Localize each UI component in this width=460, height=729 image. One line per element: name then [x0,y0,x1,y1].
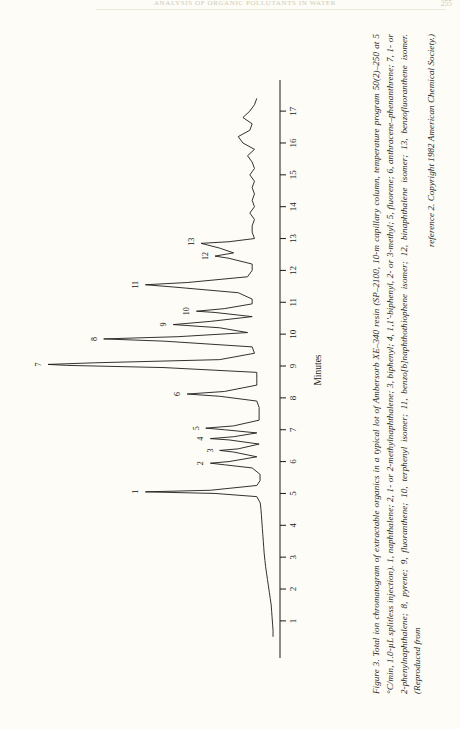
peak-label-3: 3 [206,448,215,452]
caption-line-0: Figure 3. Total ion chromatogram of extr… [371,176,381,694]
x-tick-15: 15 [288,170,298,179]
x-axis-title: Minutes [313,70,323,670]
x-tick-13: 13 [288,234,298,243]
x-tick-3: 3 [288,555,298,560]
peak-label-5: 5 [192,426,201,430]
x-tick-6: 6 [288,459,298,464]
figure-caption: Figure 3. Total ion chromatogram of extr… [370,34,439,694]
peak-label-6: 6 [173,392,182,396]
figure-block: 1234567891011121314151617 12345678910111… [0,0,460,729]
x-tick-1: 1 [288,619,298,624]
peak-label-4: 4 [196,437,205,441]
x-tick-8: 8 [288,396,298,401]
trace-path [48,98,273,636]
peak-label-10: 10 [182,307,191,315]
peak-label-13: 13 [187,238,196,246]
caption-line-4: reference 2. Copyright 1982 American Che… [426,34,440,694]
peak-label-12: 12 [201,252,210,260]
x-tick-11: 11 [288,298,298,307]
x-tick-7: 7 [288,427,298,432]
plot-inner: 1234567891011121314151617 12345678910111… [30,70,340,670]
peak-label-2: 2 [196,461,205,465]
peak-label-1: 1 [131,490,140,494]
peak-label-11: 11 [131,281,140,289]
x-tick-17: 17 [288,107,298,116]
chromatogram-plot: 1234567891011121314151617 12345678910111… [30,70,340,670]
x-tick-5: 5 [288,491,298,496]
x-tick-4: 4 [288,523,298,528]
x-tick-10: 10 [288,330,298,339]
peak-label-8: 8 [90,337,99,341]
x-tick-12: 12 [288,266,298,275]
peak-label-9: 9 [159,323,168,327]
chromatogram-trace [30,70,340,670]
x-tick-9: 9 [288,364,298,369]
x-tick-16: 16 [288,138,298,147]
peak-label-7: 7 [34,362,43,366]
x-tick-2: 2 [288,587,298,592]
x-tick-14: 14 [288,202,298,211]
axis-group [280,80,286,658]
